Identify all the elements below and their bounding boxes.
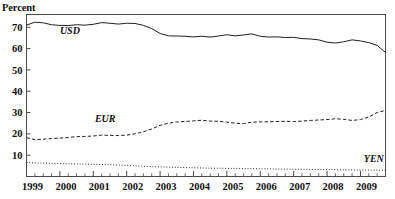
data-series-group	[27, 22, 386, 170]
y-tick-label: 20	[12, 128, 23, 139]
series-label-yen: YEN	[364, 153, 385, 164]
y-tick-label: 10	[12, 150, 23, 161]
y-tick-label: 50	[12, 65, 23, 76]
series-label-usd: USD	[60, 25, 80, 36]
series-label-eur: EUR	[94, 113, 116, 124]
series-line-usd	[27, 22, 386, 52]
currency-share-chart: Percent 10203040506070 19992000200120022…	[0, 0, 395, 199]
x-tick-label: 2002	[122, 181, 143, 192]
x-tick-label: 2005	[222, 181, 243, 192]
y-axis-tick-labels: 10203040506070	[12, 22, 23, 161]
y-axis-ticks	[27, 27, 31, 155]
y-tick-label: 70	[12, 22, 23, 33]
x-tick-label: 1999	[22, 181, 43, 192]
series-line-eur	[27, 110, 386, 139]
series-line-yen	[27, 162, 386, 170]
x-tick-label: 2008	[323, 181, 344, 192]
series-inline-labels: USDEURYEN	[60, 25, 385, 164]
y-tick-label: 30	[12, 107, 23, 118]
x-tick-label: 2004	[189, 181, 211, 192]
x-tick-label: 2007	[289, 181, 310, 192]
y-tick-label: 40	[12, 86, 23, 97]
x-axis-ticks	[27, 171, 386, 177]
x-tick-label: 2003	[156, 181, 177, 192]
plot-frame	[27, 15, 386, 177]
chart-canvas: 10203040506070 1999200020012002200320042…	[0, 0, 395, 199]
y-tick-label: 60	[12, 43, 23, 54]
x-tick-label: 2000	[55, 181, 76, 192]
x-tick-label: 2006	[256, 181, 277, 192]
x-tick-label: 2009	[356, 181, 377, 192]
x-tick-label: 2001	[89, 181, 110, 192]
x-axis-tick-labels: 1999200020012002200320042005200620072008…	[22, 181, 377, 192]
